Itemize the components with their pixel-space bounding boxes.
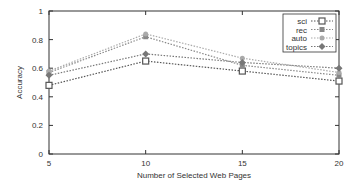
data-point-sci [46, 82, 52, 88]
y-axis-label: Accuracy [15, 66, 24, 99]
data-point-topics [142, 50, 149, 57]
series-line-sci [49, 61, 339, 85]
y-tick-label: 0.8 [32, 36, 44, 45]
data-point-auto [143, 31, 148, 36]
data-point-topics [336, 65, 343, 72]
y-tick-label: 0.2 [32, 121, 44, 130]
y-tick-label: 0.4 [32, 93, 44, 102]
legend-marker-auto [320, 36, 325, 41]
series-line-topics [49, 54, 339, 75]
legend-label-topics: topics [286, 43, 307, 52]
legend-marker-sci [319, 18, 325, 24]
accuracy-line-chart: 00.20.40.60.815101520Number of Selected … [0, 0, 358, 187]
x-tick-label: 20 [335, 159, 344, 168]
x-tick-label: 5 [47, 159, 52, 168]
y-tick-label: 1 [39, 7, 44, 16]
legend-marker-rec [320, 27, 325, 32]
x-tick-label: 10 [141, 159, 150, 168]
y-tick-label: 0 [39, 150, 44, 159]
x-axis-label: Number of Selected Web Pages [137, 171, 251, 180]
y-tick-label: 0.6 [32, 64, 44, 73]
x-tick-label: 15 [238, 159, 247, 168]
data-point-sci [143, 58, 149, 64]
data-point-sci [336, 78, 342, 84]
data-point-sci [239, 68, 245, 74]
